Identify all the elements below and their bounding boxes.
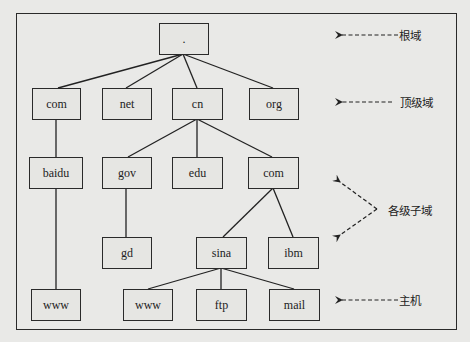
node-root: .	[159, 23, 209, 55]
label-subdomains: 各级子域	[388, 202, 432, 218]
node-sina-www: www	[123, 289, 173, 321]
node-gd: gd	[102, 237, 152, 269]
node-edu: edu	[172, 157, 223, 189]
node-gov: gov	[102, 157, 152, 189]
label-host: 主机	[399, 292, 421, 308]
node-tld-com: com	[32, 88, 81, 120]
node-tld-net: net	[102, 88, 152, 120]
node-cn-com: com	[248, 157, 299, 189]
node-mail: mail	[269, 289, 320, 321]
node-tld-cn: cn	[172, 88, 223, 120]
node-sina: sina	[196, 237, 247, 269]
node-ibm: ibm	[268, 237, 319, 269]
dns-hierarchy-diagram: . com net cn org baidu gov edu com gd si…	[0, 0, 470, 342]
node-baidu: baidu	[29, 157, 83, 189]
label-root-domain: 根域	[399, 27, 421, 43]
node-ftp: ftp	[196, 289, 247, 321]
node-tld-org: org	[249, 88, 299, 120]
node-baidu-www: www	[31, 289, 81, 321]
label-top-level-domain: 顶级域	[400, 94, 433, 110]
